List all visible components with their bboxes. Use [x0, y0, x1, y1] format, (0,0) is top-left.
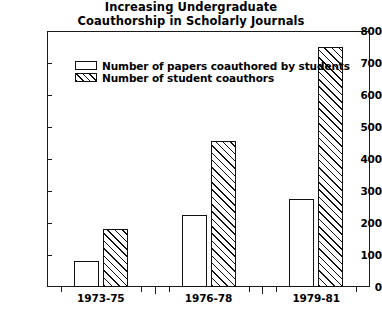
- x-tick-label: 1973-75: [77, 292, 125, 304]
- chart-title-line-2: Coauthorship in Scholarly Journals: [0, 15, 382, 29]
- y-tick-mark: [47, 159, 52, 160]
- x-tick-mark-minor: [356, 287, 357, 292]
- bar-papers-1979-81: [289, 199, 314, 287]
- legend-swatch-coauthors-icon: [75, 73, 97, 83]
- x-tick-mark-minor: [141, 287, 142, 292]
- bar-coauthors-1976-78: [211, 141, 236, 287]
- legend-label-coauthors: Number of student coauthors: [102, 72, 274, 84]
- y-tick-label: 500: [342, 121, 382, 133]
- y-tick-label: 600: [342, 89, 382, 101]
- x-tick-label: 1976-78: [185, 292, 233, 304]
- x-tick-mark: [155, 287, 156, 294]
- legend-item-coauthors: Number of student coauthors: [75, 72, 350, 83]
- legend-label-papers: Number of papers coauthored by students: [102, 60, 350, 72]
- legend-swatch-papers-icon: [75, 61, 97, 71]
- x-tick-label: 1979-81: [292, 292, 340, 304]
- y-tick-label: 100: [342, 249, 382, 261]
- bar-chart: Increasing Undergraduate Coauthorship in…: [0, 0, 382, 313]
- y-tick-label: 400: [342, 153, 382, 165]
- legend-item-papers: Number of papers coauthored by students: [75, 60, 350, 71]
- y-tick-mark: [47, 63, 52, 64]
- bar-coauthors-1973-75: [103, 229, 128, 287]
- bar-papers-1976-78: [182, 215, 207, 287]
- x-tick-mark-minor: [249, 287, 250, 292]
- y-tick-mark: [47, 127, 52, 128]
- y-tick-mark: [47, 95, 52, 96]
- chart-legend: Number of papers coauthored by students …: [75, 60, 350, 84]
- y-tick-label: 300: [342, 185, 382, 197]
- y-tick-label: 800: [342, 25, 382, 37]
- chart-title-line-1: Increasing Undergraduate: [0, 1, 382, 15]
- y-tick-mark: [47, 191, 52, 192]
- x-tick-mark-minor: [169, 287, 170, 292]
- x-tick-mark: [262, 287, 263, 294]
- chart-title: Increasing Undergraduate Coauthorship in…: [0, 1, 382, 28]
- y-tick-label: 200: [342, 217, 382, 229]
- x-tick-mark-minor: [61, 287, 62, 292]
- y-tick-label: 0: [342, 281, 382, 293]
- bar-papers-1973-75: [74, 261, 99, 287]
- y-tick-mark: [47, 255, 52, 256]
- y-tick-mark: [47, 223, 52, 224]
- x-tick-mark-minor: [276, 287, 277, 292]
